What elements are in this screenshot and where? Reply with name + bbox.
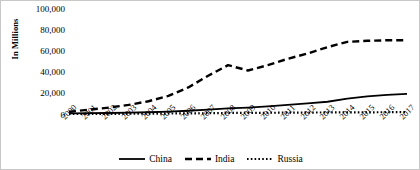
- chart-legend: ChinaIndiaRussia: [1, 150, 420, 168]
- y-axis-tick-label: 80,000: [19, 26, 65, 35]
- y-axis-tick-label: 40,000: [19, 68, 65, 77]
- legend-label: Russia: [277, 154, 302, 164]
- legend-swatch-solid: [119, 155, 145, 163]
- y-axis-tick-labels: 020,00040,00060,00080,000100,000: [15, 1, 65, 170]
- legend-item-china[interactable]: China: [119, 154, 172, 164]
- y-axis-tick-label: 0: [19, 111, 65, 120]
- y-axis-tick-label: 60,000: [19, 47, 65, 56]
- y-axis-tick-label: 100,000: [19, 5, 65, 14]
- legend-swatch-dotted: [247, 155, 273, 163]
- y-axis-tick-label: 20,000: [19, 89, 65, 98]
- x-axis-tick-labels: 2000200120022003200420052006200720082009…: [69, 115, 407, 149]
- legend-swatch-dashed: [185, 155, 211, 163]
- legend-item-india[interactable]: India: [185, 154, 235, 164]
- line-chart: In Millions 020,00040,00060,00080,000100…: [0, 0, 420, 170]
- legend-label: China: [149, 154, 172, 164]
- legend-item-russia[interactable]: Russia: [247, 154, 302, 164]
- legend-label: India: [215, 154, 235, 164]
